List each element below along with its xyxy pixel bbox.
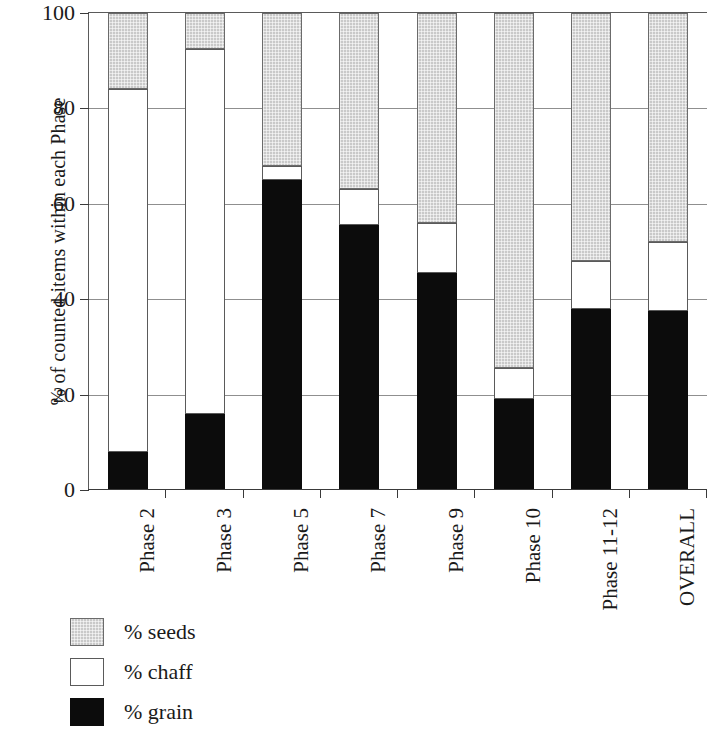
bar-segment-seeds[interactable] bbox=[571, 13, 611, 261]
bar-segment-grain[interactable] bbox=[262, 180, 302, 490]
bar-group[interactable] bbox=[339, 13, 379, 490]
x-axis-label: Phase 9 bbox=[446, 508, 467, 573]
x-axis-label-text: Phase 7 bbox=[368, 508, 389, 573]
legend: % seeds% chaff% grain bbox=[70, 612, 195, 732]
bar-segment-seeds[interactable] bbox=[648, 13, 688, 242]
y-axis-tick-label: 40 bbox=[53, 288, 75, 310]
bar-segment-grain[interactable] bbox=[417, 273, 457, 490]
x-axis-tick bbox=[320, 489, 321, 498]
legend-label: % grain bbox=[124, 701, 193, 723]
legend-swatch-grain bbox=[70, 698, 104, 726]
x-axis-tick bbox=[243, 489, 244, 498]
bar-segment-grain[interactable] bbox=[339, 225, 379, 490]
legend-item[interactable]: % grain bbox=[70, 692, 195, 732]
x-axis-label: Phase 2 bbox=[137, 508, 158, 573]
y-axis-tick bbox=[80, 108, 89, 109]
x-axis-label-text: Phase 3 bbox=[214, 508, 235, 573]
x-axis-label: Phase 7 bbox=[368, 508, 389, 573]
x-axis-label-text: Phase 2 bbox=[137, 508, 158, 573]
bar-segment-chaff[interactable] bbox=[494, 368, 534, 399]
bar-group[interactable] bbox=[262, 13, 302, 490]
bar-group[interactable] bbox=[494, 13, 534, 490]
bar-segment-chaff[interactable] bbox=[185, 49, 225, 414]
bar-segment-seeds[interactable] bbox=[185, 13, 225, 49]
bar-segment-grain[interactable] bbox=[571, 309, 611, 490]
bar-segment-chaff[interactable] bbox=[262, 166, 302, 180]
y-axis-tick bbox=[80, 490, 89, 491]
bar-segment-grain[interactable] bbox=[108, 452, 148, 490]
y-axis-tick bbox=[80, 395, 89, 396]
bar-segment-seeds[interactable] bbox=[494, 13, 534, 368]
legend-swatch-seeds bbox=[70, 618, 104, 646]
legend-label: % chaff bbox=[124, 661, 193, 683]
x-axis-tick bbox=[165, 489, 166, 498]
y-axis-tick bbox=[80, 299, 89, 300]
y-axis-tick bbox=[80, 13, 89, 14]
x-axis-label: Phase 3 bbox=[214, 508, 235, 573]
legend-item[interactable]: % seeds bbox=[70, 612, 195, 652]
stacked-bar-chart: % of counted items within each Phase 100… bbox=[0, 0, 710, 742]
x-axis-label-text: Phase 11-12 bbox=[600, 508, 621, 610]
bars-layer bbox=[89, 13, 707, 490]
y-axis-tick-label: 100 bbox=[42, 2, 75, 24]
legend-swatch-chaff bbox=[70, 658, 104, 686]
bar-segment-seeds[interactable] bbox=[108, 13, 148, 89]
bar-segment-seeds[interactable] bbox=[262, 13, 302, 166]
bar-segment-chaff[interactable] bbox=[571, 261, 611, 309]
bar-group[interactable] bbox=[185, 13, 225, 490]
bar-group[interactable] bbox=[417, 13, 457, 490]
bar-group[interactable] bbox=[648, 13, 688, 490]
bar-segment-chaff[interactable] bbox=[339, 189, 379, 225]
x-axis-label-text: Phase 5 bbox=[291, 508, 312, 573]
bar-segment-seeds[interactable] bbox=[339, 13, 379, 189]
y-axis-tick-label: 0 bbox=[64, 479, 75, 501]
x-axis-label: OVERALL bbox=[677, 508, 698, 606]
x-axis-label: Phase 11-12 bbox=[600, 508, 621, 610]
y-axis-tick-label: 20 bbox=[53, 384, 75, 406]
legend-label: % seeds bbox=[124, 621, 195, 643]
x-axis-label: Phase 5 bbox=[291, 508, 312, 573]
x-axis-tick bbox=[706, 489, 707, 498]
x-axis-label-text: OVERALL bbox=[677, 508, 698, 606]
bar-segment-grain[interactable] bbox=[648, 311, 688, 490]
y-axis-tick-label: 80 bbox=[53, 97, 75, 119]
bar-group[interactable] bbox=[108, 13, 148, 490]
bar-segment-seeds[interactable] bbox=[417, 13, 457, 223]
x-axis-label-text: Phase 9 bbox=[446, 508, 467, 573]
bar-segment-chaff[interactable] bbox=[648, 242, 688, 311]
x-axis-label: Phase 10 bbox=[523, 508, 544, 583]
bar-segment-grain[interactable] bbox=[494, 399, 534, 490]
x-axis-label-text: Phase 10 bbox=[523, 508, 544, 583]
x-axis-tick bbox=[552, 489, 553, 498]
bar-group[interactable] bbox=[571, 13, 611, 490]
x-axis-tick bbox=[474, 489, 475, 498]
bar-segment-chaff[interactable] bbox=[417, 223, 457, 273]
bar-segment-grain[interactable] bbox=[185, 414, 225, 490]
x-axis-tick bbox=[397, 489, 398, 498]
x-axis-tick bbox=[629, 489, 630, 498]
y-axis-tick-label: 60 bbox=[53, 193, 75, 215]
bar-segment-chaff[interactable] bbox=[108, 89, 148, 452]
y-axis-tick bbox=[80, 204, 89, 205]
legend-item[interactable]: % chaff bbox=[70, 652, 195, 692]
plot-area: 100806040200 bbox=[88, 12, 707, 490]
